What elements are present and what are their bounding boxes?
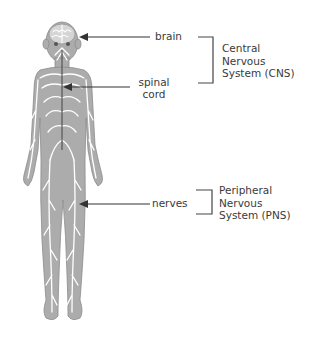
- cns-line1: Central: [222, 42, 295, 55]
- cns-group-label: Central Nervous System (CNS): [222, 42, 295, 80]
- cns-line2: Nervous: [222, 55, 295, 68]
- human-body: [24, 22, 103, 320]
- cns-bracket: [198, 37, 213, 83]
- spinal-cord-label: spinal cord: [137, 76, 171, 100]
- pns-line2: Nervous: [219, 197, 291, 210]
- pns-line3: System (PNS): [219, 209, 291, 222]
- nerves-label: nerves: [152, 197, 188, 209]
- spinal-cord-label-line2: cord: [137, 88, 171, 100]
- group-brackets: [196, 37, 213, 214]
- pns-group-label: Peripheral Nervous System (PNS): [219, 184, 291, 222]
- pns-line1: Peripheral: [219, 184, 291, 197]
- spinal-cord-label-line1: spinal: [137, 76, 171, 88]
- brain-label: brain: [155, 30, 182, 42]
- cns-line3: System (CNS): [222, 67, 295, 80]
- pns-bracket: [196, 190, 212, 214]
